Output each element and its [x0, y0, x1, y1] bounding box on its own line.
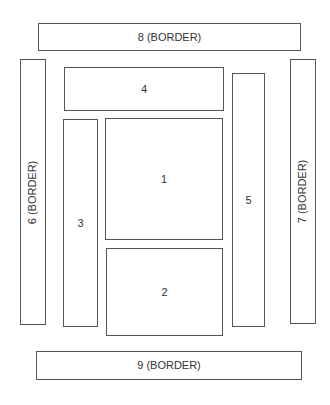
- region-1-center-top: 1: [105, 118, 223, 240]
- region-5-label: 5: [245, 195, 251, 206]
- region-7-label: 7 (BORDER): [298, 160, 309, 224]
- region-6-label: 6 (BORDER): [28, 160, 39, 224]
- region-4-top-inner: 4: [64, 67, 224, 111]
- region-3-label: 3: [77, 218, 83, 229]
- region-4-label: 4: [141, 84, 147, 95]
- region-9-bottom-border: 9 (BORDER): [36, 351, 302, 380]
- region-1-label: 1: [161, 174, 167, 185]
- region-8-top-border: 8 (BORDER): [38, 23, 301, 51]
- region-9-label: 9 (BORDER): [137, 360, 201, 371]
- region-5-right-inner: 5: [232, 73, 265, 327]
- region-8-label: 8 (BORDER): [138, 32, 202, 43]
- region-6-left-border: 6 (BORDER): [20, 59, 46, 325]
- region-3-left-inner: 3: [63, 119, 98, 327]
- region-2-center-bottom: 2: [106, 248, 223, 336]
- region-2-label: 2: [161, 287, 167, 298]
- region-7-right-border: 7 (BORDER): [290, 59, 316, 324]
